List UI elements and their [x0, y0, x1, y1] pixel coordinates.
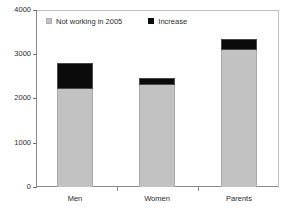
legend-item-not-working: Not working in 2005 [46, 15, 122, 27]
bar-women-base [139, 85, 175, 187]
stacked-bar-chart: 4000 3000 2000 1000 0 Men Women Parents … [0, 0, 287, 216]
bar-women-increase [139, 78, 175, 85]
x-axis-label-women: Women [127, 194, 187, 203]
bar-men-increase [57, 63, 93, 89]
y-axis-label-4000: 4000 [0, 5, 36, 15]
chart-legend: Not working in 2005 Increase [46, 15, 187, 27]
bar-parents-increase [221, 39, 257, 50]
bar-men-base [57, 89, 93, 187]
y-axis-label-2000: 2000 [0, 93, 36, 103]
x-tickmark-1 [117, 187, 118, 191]
x-axis-label-men: Men [45, 194, 105, 203]
y-axis-label-0: 0 [0, 182, 36, 192]
legend-swatch-not-working-icon [46, 18, 52, 24]
legend-label-not-working: Not working in 2005 [56, 17, 122, 26]
y-axis-label-1000: 1000 [0, 138, 36, 148]
y-axis-label-3000: 3000 [0, 49, 36, 59]
legend-item-increase: Increase [148, 15, 187, 27]
legend-label-increase: Increase [158, 17, 187, 26]
bar-parents-base [221, 50, 257, 187]
x-axis-label-parents: Parents [209, 194, 269, 203]
x-tickmark-2 [198, 187, 199, 191]
legend-swatch-increase-icon [148, 18, 154, 24]
